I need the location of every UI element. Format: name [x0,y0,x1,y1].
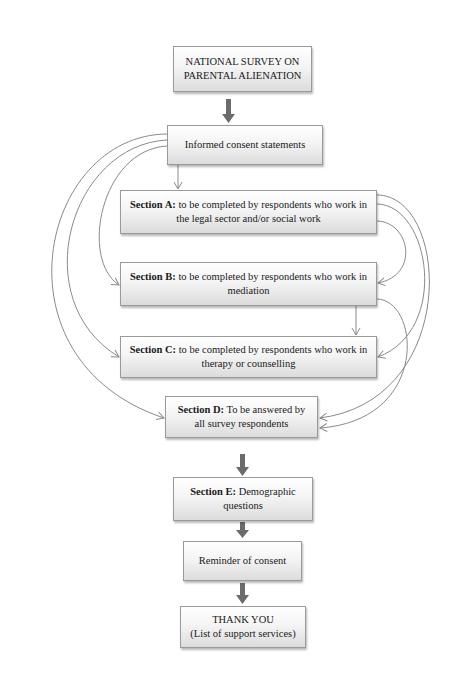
thank-you-line2: (List of support services) [190,627,295,641]
section-c-text: to be completed by respondents who work … [176,344,367,369]
section-c-heading: Section C: [130,344,176,355]
reminder-label: Reminder of consent [199,554,286,568]
node-survey-title: NATIONAL SURVEY ON PARENTAL ALIENATION [173,46,312,92]
survey-title-line2: PARENTAL ALIENATION [184,69,302,83]
section-e-heading: Section E: [190,486,236,497]
node-thank-you: THANK YOU (List of support services) [180,606,306,648]
node-section-e: Section E: Demographic questions [173,477,313,521]
node-informed-consent: Informed consent statements [167,125,323,165]
thick-arrow-d-to-e [236,454,249,476]
thick-arrow-reminder-to-thanks [236,583,249,604]
node-section-c: Section C: to be completed by respondent… [120,336,377,378]
node-reminder-of-consent: Reminder of consent [183,541,302,581]
arrow-section-a-to-section-c [377,204,425,357]
node-section-a: Section A: to be completed by respondent… [120,190,377,234]
thank-you-line1: THANK YOU [212,613,274,627]
node-section-d: Section D: To be answered by all survey … [165,396,318,438]
section-b-text: to be completed by respondents who work … [176,271,367,296]
section-a-text: to be completed by respondents who work … [176,199,367,224]
node-section-b: Section B: to be completed by respondent… [120,262,377,306]
section-a-heading: Section A: [130,199,176,210]
section-b-heading: Section B: [130,271,176,282]
survey-title-line1: NATIONAL SURVEY ON [186,55,300,69]
arrow-section-a-to-section-b [377,221,406,283]
thick-arrow-e-to-reminder [236,522,249,538]
thick-arrow-title-to-consent [222,99,235,123]
arrow-consent-to-section-c [67,140,167,357]
section-d-heading: Section D: [178,404,224,415]
informed-consent-label: Informed consent statements [185,138,306,152]
